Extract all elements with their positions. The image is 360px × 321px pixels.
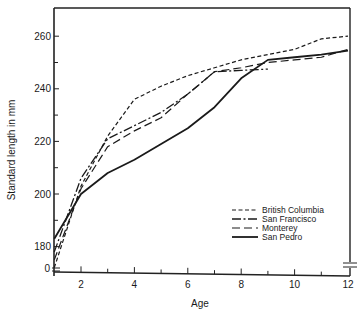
x-axis-title: Age bbox=[191, 298, 209, 309]
legend: British ColumbiaSan FranciscoMontereySan… bbox=[232, 205, 324, 242]
y-tick-label: 240 bbox=[34, 83, 51, 94]
chart-canvas: 1802002202402600 24681012 British Columb… bbox=[0, 0, 360, 321]
series-line-monterey bbox=[54, 49, 348, 259]
y-tick-label: 220 bbox=[34, 136, 51, 147]
y-axis-title: Standard length in mm bbox=[6, 100, 17, 201]
x-tick-label: 2 bbox=[78, 279, 84, 290]
y-zero-label: 0 bbox=[44, 263, 50, 274]
x-tick-label: 10 bbox=[289, 279, 301, 290]
data-lines bbox=[54, 36, 348, 267]
y-axis: 1802002202402600 bbox=[34, 31, 60, 274]
growth-chart: 1802002202402600 24681012 British Columb… bbox=[0, 0, 360, 321]
x-axis: 24681012 bbox=[78, 266, 354, 290]
frame-bottom bbox=[54, 272, 350, 276]
series-line-san-francisco bbox=[54, 69, 268, 252]
y-tick-label: 180 bbox=[34, 241, 51, 252]
y-tick-label: 200 bbox=[34, 189, 51, 200]
legend-label: San Pedro bbox=[262, 232, 302, 242]
series-line-british-columbia bbox=[54, 36, 348, 267]
x-tick-label: 4 bbox=[132, 279, 138, 290]
x-tick-label: 12 bbox=[342, 279, 354, 290]
y-tick-label: 260 bbox=[34, 31, 51, 42]
x-tick-label: 8 bbox=[238, 279, 244, 290]
plot-frame bbox=[54, 8, 357, 276]
x-tick-label: 6 bbox=[185, 279, 191, 290]
